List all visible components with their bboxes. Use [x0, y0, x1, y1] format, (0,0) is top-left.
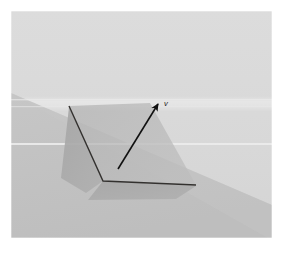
horizontal-scanline-upper	[11, 99, 272, 100]
scene-canvas: v ·	[0, 0, 282, 254]
figure-root: v ·	[0, 0, 282, 254]
